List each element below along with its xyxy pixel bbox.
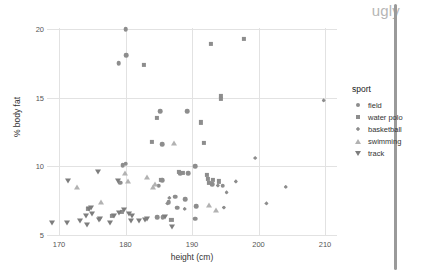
legend-item-water-polo[interactable]: water polo	[352, 111, 403, 123]
triangle-up-marker-icon	[352, 135, 364, 147]
legend-title: sport	[352, 84, 403, 94]
data-point-field	[123, 27, 128, 32]
diamond-marker-icon	[352, 123, 364, 135]
data-point-swimming	[125, 179, 131, 184]
data-point-water-polo	[219, 97, 223, 101]
data-point-track	[89, 212, 95, 217]
data-point-swimming	[74, 184, 80, 189]
data-point-basketball	[222, 205, 226, 209]
data-point-field	[160, 142, 165, 147]
data-point-water-polo	[169, 218, 173, 222]
data-point-basketball	[284, 185, 288, 189]
gridline-horizontal	[47, 166, 337, 167]
x-tick-label: 170	[53, 240, 66, 249]
data-point-field	[220, 183, 225, 188]
gridline-vertical	[126, 28, 127, 235]
legend-item-label: field	[368, 101, 382, 110]
data-point-water-polo	[150, 140, 154, 144]
y-axis-title: % body fat	[12, 72, 22, 162]
legend-entries: fieldwater polobasketballswimmingtrack	[352, 99, 403, 159]
data-point-field	[193, 164, 198, 169]
data-point-track	[88, 205, 94, 210]
data-point-track	[169, 224, 175, 229]
square-marker-icon	[352, 111, 364, 123]
y-tick-label: 5	[30, 231, 44, 240]
triangle-down-marker-icon	[352, 147, 364, 159]
data-point-track	[65, 179, 71, 184]
data-point-basketball	[234, 179, 238, 183]
data-point-track	[77, 219, 83, 224]
data-point-track	[64, 220, 70, 225]
gridline-vertical	[259, 28, 260, 235]
data-point-field	[185, 109, 190, 114]
data-point-water-polo	[217, 179, 221, 183]
data-point-field	[193, 216, 198, 221]
y-tick-label: 10	[30, 162, 44, 171]
circle-marker-icon	[352, 99, 364, 111]
data-point-field	[123, 161, 128, 166]
data-point-water-polo	[209, 42, 213, 46]
data-point-basketball	[253, 156, 257, 160]
data-point-water-polo	[181, 171, 185, 175]
y-tick-label: 20	[30, 25, 44, 34]
data-point-swimming	[152, 182, 158, 187]
data-point-track	[129, 213, 135, 218]
data-point-swimming	[213, 208, 219, 213]
vertical-scrollbar-track[interactable]	[404, 0, 410, 274]
scatter-plot-area	[59, 29, 325, 235]
data-point-water-polo	[199, 120, 203, 124]
data-point-track	[95, 169, 101, 174]
x-tick-label: 180	[119, 240, 132, 249]
legend: sport fieldwater polobasketballswimmingt…	[352, 84, 403, 159]
data-point-basketball	[224, 190, 228, 194]
data-point-track	[162, 215, 168, 220]
data-point-field	[124, 53, 129, 58]
data-point-track	[84, 223, 90, 228]
data-point-track	[97, 216, 103, 221]
legend-item-label: swimming	[368, 137, 401, 146]
data-point-track	[128, 219, 134, 224]
data-point-field	[194, 204, 199, 209]
data-point-swimming	[206, 202, 212, 207]
data-point-track	[115, 179, 121, 184]
legend-item-track[interactable]: track	[352, 147, 403, 159]
data-point-water-polo	[202, 141, 206, 145]
data-point-track	[144, 216, 150, 221]
data-point-basketball	[182, 207, 186, 211]
legend-item-basketball[interactable]: basketball	[352, 123, 403, 135]
x-tick-label: 200	[252, 240, 265, 249]
data-point-field	[117, 61, 122, 66]
data-point-field	[158, 109, 163, 114]
gridline-vertical	[325, 28, 326, 235]
gridline-vertical	[59, 28, 60, 235]
gridline-vertical	[192, 28, 193, 235]
data-point-track	[136, 219, 142, 224]
data-point-water-polo	[211, 178, 215, 182]
legend-item-label: water polo	[368, 113, 403, 122]
gridline-horizontal	[47, 29, 337, 30]
data-point-field	[186, 171, 191, 176]
y-tick-label: 15	[30, 93, 44, 102]
data-point-swimming	[122, 171, 128, 176]
data-point-field	[175, 205, 180, 210]
data-point-water-polo	[155, 116, 159, 120]
data-point-track	[107, 220, 113, 225]
data-point-field	[183, 197, 188, 202]
x-axis-title: height (cm)	[59, 252, 325, 262]
legend-item-label: track	[368, 149, 384, 158]
legend-item-field[interactable]: field	[352, 99, 403, 111]
data-point-field	[155, 215, 160, 220]
legend-item-label: basketball	[368, 125, 402, 134]
legend-item-swimming[interactable]: swimming	[352, 135, 403, 147]
data-point-swimming	[171, 140, 177, 145]
data-point-swimming	[98, 200, 104, 205]
chart-page: ugly 1701801902002105101520 height (cm) …	[0, 0, 422, 274]
data-point-water-polo	[142, 63, 146, 67]
data-point-track	[49, 220, 55, 225]
gridline-horizontal	[47, 235, 337, 236]
data-point-swimming	[144, 175, 150, 180]
x-tick-label: 210	[319, 240, 332, 249]
data-point-basketball	[264, 201, 268, 205]
data-point-water-polo	[159, 178, 163, 182]
data-point-track	[83, 213, 89, 218]
